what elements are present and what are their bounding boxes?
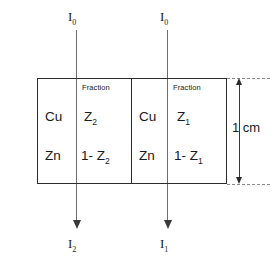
left-row-1-fraction: 1- Z2 [81, 149, 110, 165]
right-transmitted-beam-label: I1 [160, 237, 168, 254]
right-row-1-fraction: 1- Z1 [174, 149, 203, 165]
right-beam-arrowhead [164, 220, 172, 229]
right-transmitted-subscript: 1 [164, 245, 168, 254]
diagram-canvas: I0 Fraction Cu Z2 Zn 1- Z2 I2 I0 Fractio… [0, 0, 276, 262]
left-incident-beam-label: I0 [68, 10, 76, 27]
right-incident-subscript: 0 [164, 18, 168, 27]
left-fraction-header: Fraction [82, 84, 110, 92]
left-row-0-fraction: Z2 [84, 110, 97, 126]
left-beam-arrowhead [73, 220, 81, 229]
right-incident-beam-label: I0 [160, 10, 168, 27]
left-transmitted-beam-label: I2 [68, 237, 76, 254]
right-row-0-fraction: Z1 [177, 110, 190, 126]
left-transmitted-subscript: 2 [72, 245, 76, 254]
right-row-1-element: Zn [139, 149, 155, 163]
right-fraction-header: Fraction [173, 84, 201, 92]
left-row-1-element: Zn [45, 149, 61, 163]
right-slab-box [131, 78, 227, 184]
right-row-0-fraction-subscript: 1 [185, 117, 190, 127]
right-row-1-fraction-symbol: 1- Z [174, 148, 198, 163]
right-row-1-fraction-subscript: 1 [198, 156, 203, 166]
right-row-0-element: Cu [139, 110, 156, 124]
left-incident-subscript: 0 [72, 18, 76, 27]
dimension-extension-line-bottom [227, 184, 270, 185]
left-slab-box [37, 78, 132, 184]
dimension-label: 1 cm [232, 121, 260, 134]
dimension-extension-line-top [227, 78, 270, 79]
left-row-0-fraction-subscript: 2 [92, 117, 97, 127]
left-row-0-element: Cu [45, 110, 62, 124]
dimension-arrowhead-top [236, 78, 242, 85]
left-row-0-fraction-symbol: Z [84, 109, 92, 124]
left-row-1-fraction-subscript: 2 [105, 156, 110, 166]
dimension-arrowhead-bottom [236, 177, 242, 184]
left-row-1-fraction-symbol: 1- Z [81, 148, 105, 163]
right-row-0-fraction-symbol: Z [177, 109, 185, 124]
